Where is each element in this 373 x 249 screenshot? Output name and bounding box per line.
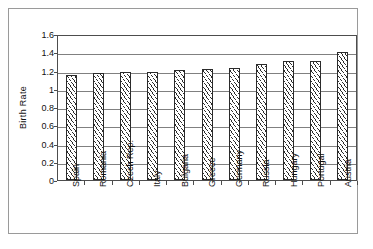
x-tick-label-text: Czech Rep. xyxy=(125,140,135,187)
y-tick-label: 0.2 xyxy=(41,158,54,168)
y-tick-label: 1.4 xyxy=(41,48,54,58)
x-label-slot: Germany xyxy=(221,186,248,238)
x-tick-mark xyxy=(193,181,194,185)
x-axis-tick-labels: SpainRomaniaCzech Rep.ItalyBulgariaGreec… xyxy=(57,186,357,238)
x-label-slot: Italy xyxy=(139,186,166,238)
x-label-slot: Hungary xyxy=(275,186,302,238)
x-label-slot: Greece xyxy=(193,186,220,238)
x-tick-label: Greece xyxy=(207,157,217,187)
bar xyxy=(147,72,158,180)
x-tick-mark xyxy=(248,181,249,185)
bar-slot xyxy=(139,36,166,180)
x-tick-label-text: Germany xyxy=(234,150,244,187)
x-label-slot: Austria xyxy=(330,186,357,238)
y-tick-label: 0.8 xyxy=(41,103,54,113)
x-tick-label-text: Portugal xyxy=(316,153,326,187)
x-tick-label-text: Romania xyxy=(98,151,108,187)
x-tick-mark xyxy=(357,181,358,185)
x-tick-mark xyxy=(166,181,167,185)
x-label-slot: Romania xyxy=(84,186,111,238)
x-tick-label: Czech Rep. xyxy=(125,140,135,187)
x-tick-label: Romania xyxy=(98,151,108,187)
y-tick-label: 0.4 xyxy=(41,140,54,150)
x-tick-mark xyxy=(221,181,222,185)
bar-slot xyxy=(58,36,85,180)
x-tick-mark xyxy=(139,181,140,185)
y-tick-label: 1.2 xyxy=(41,67,54,77)
x-tick-label: Russia xyxy=(261,159,271,187)
x-label-slot: Russia xyxy=(248,186,275,238)
x-label-slot: Portugal xyxy=(302,186,329,238)
x-tick-mark xyxy=(302,181,303,185)
x-label-slot: Spain xyxy=(57,186,84,238)
x-tick-label-text: Hungary xyxy=(289,153,299,187)
x-tick-mark xyxy=(112,181,113,185)
x-tick-label-text: Italy xyxy=(152,170,162,187)
x-tick-label: Bulgaria xyxy=(180,154,190,187)
x-tick-label-text: Spain xyxy=(71,164,81,187)
x-tick-mark xyxy=(275,181,276,185)
x-tick-label-text: Bulgaria xyxy=(180,154,190,187)
y-tick-label: 0.6 xyxy=(41,121,54,131)
x-tick-label: Portugal xyxy=(316,153,326,187)
bar-slot xyxy=(248,36,275,180)
x-tick-label: Italy xyxy=(152,170,162,187)
x-tick-mark xyxy=(84,181,85,185)
chart-outer-frame: Birth Rate 00.20.40.60.811.21.41.6 Spain… xyxy=(8,8,358,234)
x-label-slot: Czech Rep. xyxy=(112,186,139,238)
x-tick-label: Spain xyxy=(71,164,81,187)
x-tick-label-text: Russia xyxy=(261,159,271,187)
y-tick-label: 1.6 xyxy=(41,30,54,40)
x-tick-mark xyxy=(330,181,331,185)
x-tick-label-text: Austria xyxy=(343,159,353,187)
x-tick-label: Hungary xyxy=(289,153,299,187)
x-label-slot: Bulgaria xyxy=(166,186,193,238)
x-tick-label: Austria xyxy=(343,159,353,187)
y-axis-tick-labels: 00.20.40.60.811.21.41.6 xyxy=(9,35,54,181)
x-tick-label-text: Greece xyxy=(207,157,217,187)
x-tick-label: Germany xyxy=(234,150,244,187)
